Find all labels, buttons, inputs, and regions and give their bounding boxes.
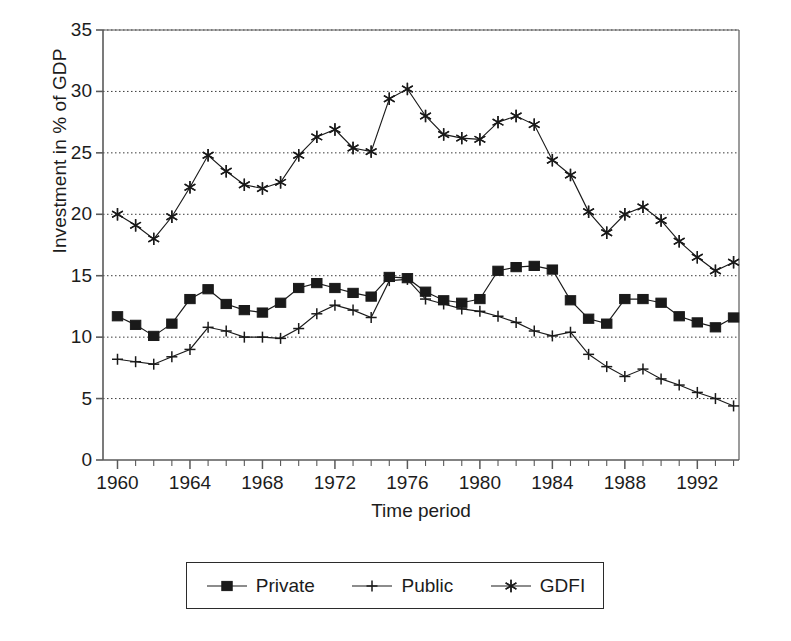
- data-point-plus: [112, 354, 123, 365]
- y-axis-title: Investment in % of GDP: [49, 0, 71, 361]
- data-point-filled-square: [620, 294, 630, 303]
- investment-chart-figure: Investment in % of GDP Time period 05101…: [0, 0, 791, 641]
- data-point-plus: [710, 393, 721, 404]
- data-point-plus: [493, 311, 504, 322]
- data-point-filled-square: [130, 320, 140, 329]
- data-point-filled-square: [710, 323, 720, 332]
- data-point-filled-square: [565, 296, 575, 305]
- data-point-asterisk: [112, 208, 123, 220]
- legend-marker-plus: [350, 576, 394, 596]
- data-point-filled-square: [222, 581, 232, 590]
- data-point-asterisk: [638, 201, 649, 213]
- data-point-plus: [692, 387, 703, 398]
- data-point-plus: [637, 364, 648, 375]
- data-point-filled-square: [602, 319, 612, 328]
- y-tick-label: 10: [40, 327, 92, 346]
- x-tick-label: 1992: [662, 473, 732, 492]
- y-tick-label: 0: [40, 450, 92, 469]
- data-point-asterisk: [511, 110, 522, 122]
- legend: PrivatePublicGDFI: [186, 562, 604, 609]
- y-tick-label: 15: [40, 266, 92, 285]
- data-point-filled-square: [638, 294, 648, 303]
- data-point-filled-square: [185, 294, 195, 303]
- data-point-filled-square: [674, 312, 684, 321]
- plot-area: [0, 0, 791, 641]
- data-point-plus: [547, 330, 558, 341]
- legend-marker-filled-square: [205, 576, 249, 596]
- data-point-asterisk: [565, 169, 576, 181]
- data-point-asterisk: [275, 176, 286, 188]
- data-point-filled-square: [330, 283, 340, 292]
- y-tick-label: 30: [40, 81, 92, 100]
- data-point-asterisk: [529, 118, 540, 130]
- data-point-asterisk: [384, 93, 395, 105]
- data-point-plus: [619, 371, 630, 382]
- data-point-asterisk: [221, 165, 232, 177]
- data-point-filled-square: [366, 292, 376, 301]
- legend-item-private: Private: [205, 575, 315, 597]
- data-point-asterisk: [402, 83, 413, 95]
- data-point-plus: [366, 312, 377, 323]
- data-point-filled-square: [112, 312, 122, 321]
- data-point-asterisk: [130, 219, 141, 231]
- x-tick-label: 1968: [227, 473, 297, 492]
- data-point-plus: [529, 326, 540, 337]
- data-point-filled-square: [293, 283, 303, 292]
- y-tick-label: 20: [40, 204, 92, 223]
- data-point-asterisk: [185, 181, 196, 193]
- legend-item-public: Public: [350, 575, 453, 597]
- legend-label: Private: [256, 575, 315, 597]
- data-point-filled-square: [203, 285, 213, 294]
- data-point-filled-square: [493, 266, 503, 275]
- legend-item-gdfi: GDFI: [489, 575, 585, 597]
- y-tick-label: 25: [40, 143, 92, 162]
- y-tick-label: 5: [40, 389, 92, 408]
- data-point-filled-square: [728, 313, 738, 322]
- legend-marker-asterisk: [489, 576, 533, 596]
- data-point-filled-square: [239, 306, 249, 315]
- data-point-filled-square: [475, 294, 485, 303]
- data-point-plus: [728, 400, 739, 411]
- data-point-plus: [511, 317, 522, 328]
- data-point-filled-square: [511, 263, 521, 272]
- legend-label: Public: [401, 575, 453, 597]
- x-tick-label: 1960: [82, 473, 152, 492]
- data-point-asterisk: [366, 145, 377, 157]
- data-point-asterisk: [239, 179, 250, 191]
- data-point-filled-square: [529, 261, 539, 270]
- data-point-filled-square: [656, 298, 666, 307]
- x-tick-label: 1988: [590, 473, 660, 492]
- x-tick-label: 1984: [517, 473, 587, 492]
- data-point-asterisk: [257, 182, 268, 194]
- data-point-plus: [329, 300, 340, 311]
- data-point-filled-square: [547, 265, 557, 274]
- data-point-filled-square: [583, 314, 593, 323]
- x-tick-label: 1976: [372, 473, 442, 492]
- legend-label: GDFI: [540, 575, 585, 597]
- data-point-asterisk: [203, 149, 214, 161]
- data-point-filled-square: [348, 288, 358, 297]
- x-axis-title: Time period: [103, 500, 739, 522]
- data-point-filled-square: [312, 278, 322, 287]
- data-point-plus: [275, 333, 286, 344]
- data-point-plus: [601, 361, 612, 372]
- data-point-plus: [367, 580, 378, 591]
- data-point-filled-square: [221, 299, 231, 308]
- data-point-filled-square: [275, 298, 285, 307]
- data-point-asterisk: [547, 154, 558, 166]
- data-point-plus: [130, 356, 141, 367]
- data-point-filled-square: [167, 319, 177, 328]
- data-point-asterisk: [728, 256, 739, 268]
- x-tick-label: 1972: [300, 473, 370, 492]
- data-point-plus: [166, 351, 177, 362]
- data-point-filled-square: [257, 308, 267, 317]
- data-point-plus: [656, 373, 667, 384]
- x-tick-label: 1980: [445, 473, 515, 492]
- data-point-plus: [239, 332, 250, 343]
- data-point-plus: [674, 380, 685, 391]
- y-tick-label: 35: [40, 20, 92, 39]
- data-point-asterisk: [710, 265, 721, 277]
- data-point-filled-square: [149, 331, 159, 340]
- data-point-asterisk: [692, 251, 703, 263]
- data-point-plus: [257, 332, 268, 343]
